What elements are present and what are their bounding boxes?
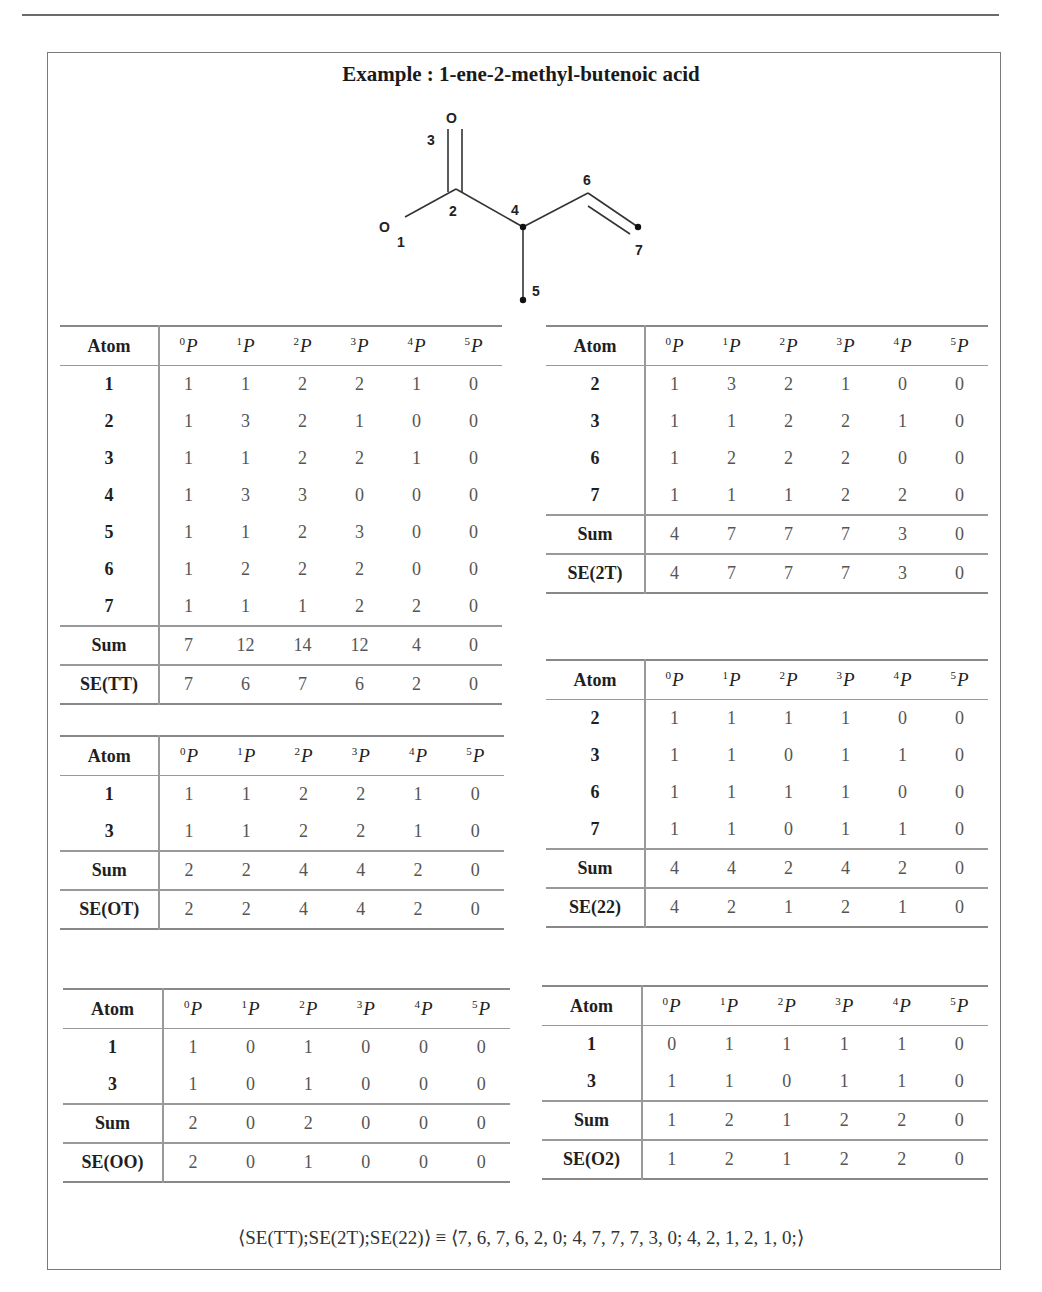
table-row: 1 101000: [63, 1029, 510, 1067]
table-row: 2 132100: [546, 366, 988, 404]
table-header-row: Atom 0P 1P 2P 3P 4P 5P: [546, 326, 988, 366]
atom-column-header: Atom: [546, 660, 645, 700]
p2-header: 2P: [274, 326, 331, 366]
atom-symbol-o1: O: [379, 219, 390, 235]
table-header-row: Atom 0P 1P 2P 3P 4P 5P: [63, 989, 510, 1029]
se-row: SE(22) 421210: [546, 888, 988, 927]
atom-number-1: 1: [397, 234, 405, 250]
table-row: 2 132100: [60, 403, 502, 440]
se-row: SE(O2) 121220: [542, 1140, 988, 1179]
se-row: SE(2T) 477730: [546, 554, 988, 593]
p2-header: 2P: [760, 660, 817, 700]
se-vector-formula: ⟨SE(TT);SE(2T);SE(22)⟩ ≡ ⟨7, 6, 7, 6, 2,…: [0, 1226, 1042, 1249]
table-row: 3 112210: [546, 403, 988, 440]
table-se-2t: Atom 0P 1P 2P 3P 4P 5P 2 132100 3 112210…: [546, 325, 988, 594]
atom-number-3: 3: [427, 132, 435, 148]
p2-header: 2P: [279, 989, 337, 1029]
se-row: SE(OT) 224420: [60, 890, 504, 929]
p1-header: 1P: [703, 326, 760, 366]
page-header-rule: [22, 14, 999, 16]
table-row: 1 011110: [542, 1026, 988, 1064]
atom-column-header: Atom: [546, 326, 645, 366]
atom-dot-5: [520, 297, 526, 303]
table-se-o2: Atom 0P 1P 2P 3P 4P 5P 1 011110 3 110110…: [542, 985, 988, 1180]
p4-header: 4P: [874, 660, 931, 700]
p4-header: 4P: [395, 989, 453, 1029]
atom-column-header: Atom: [542, 986, 642, 1026]
sum-row: Sum 712141240: [60, 626, 502, 665]
sum-row: Sum 224420: [60, 851, 504, 890]
table-row: 7 111220: [60, 588, 502, 626]
table-row: 1 112210: [60, 366, 502, 404]
p3-header: 3P: [337, 989, 395, 1029]
table-se-oo: Atom 0P 1P 2P 3P 4P 5P 1 101000 3 101000…: [63, 988, 510, 1183]
p5-header: 5P: [445, 326, 502, 366]
atom-number-6: 6: [583, 172, 591, 188]
p0-header: 0P: [642, 986, 701, 1026]
atom-number-5: 5: [532, 283, 540, 299]
table-se-22: Atom 0P 1P 2P 3P 4P 5P 2 111100 3 110110…: [546, 659, 988, 928]
table-row: 4 133000: [60, 477, 502, 514]
atom-number-4: 4: [511, 202, 519, 218]
table-row: 2 111100: [546, 700, 988, 738]
sum-row: Sum 121220: [542, 1101, 988, 1140]
atom-number-7: 7: [635, 242, 643, 258]
table-se-tt: Atom 0P 1P 2P 3P 4P 5P 1 112210 2 132100…: [60, 325, 502, 705]
p3-header: 3P: [332, 736, 389, 776]
p3-header: 3P: [331, 326, 388, 366]
p4-header: 4P: [874, 326, 931, 366]
table-row: 6 122200: [60, 551, 502, 588]
molecule-structure-diagram: O 3 2 O 1 4 6 7 5: [360, 100, 680, 310]
p1-header: 1P: [222, 989, 280, 1029]
se-row: SE(OO) 201000: [63, 1143, 510, 1182]
atom-number-2: 2: [449, 203, 457, 219]
table-row: 7 110110: [546, 811, 988, 849]
table-row: 3 110110: [542, 1063, 988, 1101]
p3-header: 3P: [815, 986, 873, 1026]
p3-header: 3P: [817, 326, 874, 366]
table-row: 3 112210: [60, 440, 502, 477]
atom-column-header: Atom: [63, 989, 163, 1029]
p0-header: 0P: [163, 989, 222, 1029]
p5-header: 5P: [931, 660, 988, 700]
table-header-row: Atom 0P 1P 2P 3P 4P 5P: [60, 326, 502, 366]
se-row: SE(TT) 767620: [60, 665, 502, 704]
table-row: 3 101000: [63, 1066, 510, 1104]
atom-symbol-o3: O: [446, 110, 457, 126]
table-row: 7 111220: [546, 477, 988, 515]
p2-header: 2P: [760, 326, 817, 366]
p2-header: 2P: [275, 736, 332, 776]
p0-header: 0P: [645, 326, 703, 366]
p5-header: 5P: [931, 326, 988, 366]
p5-header: 5P: [452, 989, 510, 1029]
table-header-row: Atom 0P 1P 2P 3P 4P 5P: [546, 660, 988, 700]
p1-header: 1P: [703, 660, 760, 700]
table-row: 1 112210: [60, 776, 504, 814]
p4-header: 4P: [389, 736, 446, 776]
p0-header: 0P: [159, 736, 217, 776]
table-row: 3 112210: [60, 813, 504, 851]
sum-row: Sum 442420: [546, 849, 988, 888]
p1-header: 1P: [217, 326, 274, 366]
sum-row: Sum 202000: [63, 1104, 510, 1143]
p2-header: 2P: [758, 986, 816, 1026]
table-se-ot: Atom 0P 1P 2P 3P 4P 5P 1 112210 3 112210…: [60, 735, 504, 930]
p4-header: 4P: [388, 326, 445, 366]
atom-column-header: Atom: [60, 736, 159, 776]
p3-header: 3P: [817, 660, 874, 700]
atom-dot-4: [520, 224, 526, 230]
table-row: 5 112300: [60, 514, 502, 551]
p0-header: 0P: [159, 326, 217, 366]
p4-header: 4P: [873, 986, 931, 1026]
atom-column-header: Atom: [60, 326, 159, 366]
table-row: 3 110110: [546, 737, 988, 774]
table-row: 6 122200: [546, 440, 988, 477]
p5-header: 5P: [930, 986, 988, 1026]
table-header-row: Atom 0P 1P 2P 3P 4P 5P: [542, 986, 988, 1026]
sum-row: Sum 477730: [546, 515, 988, 554]
atom-dot-7: [635, 224, 641, 230]
example-title: Example : 1-ene-2-methyl-butenoic acid: [0, 62, 1042, 87]
p1-header: 1P: [700, 986, 758, 1026]
table-row: 6 111100: [546, 774, 988, 811]
p1-header: 1P: [218, 736, 275, 776]
